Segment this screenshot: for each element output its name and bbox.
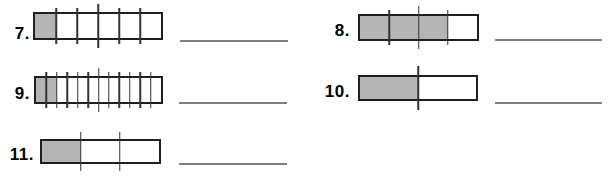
shaded-region (360, 77, 418, 99)
fraction-worksheet: 7. 8. 9. 10. 11. (0, 0, 615, 188)
segment-divider-line (389, 10, 391, 45)
segment-divider-line (67, 72, 69, 108)
shaded-region (360, 16, 448, 39)
segment-divider-line (417, 66, 419, 110)
segment-divider-line (56, 72, 58, 108)
exercise-number: 9. (0, 85, 30, 102)
fraction-bar (34, 76, 163, 104)
fraction-bar (358, 75, 478, 101)
segment-divider-line (119, 132, 121, 171)
segment-divider-line (418, 6, 420, 49)
segment-divider-line (108, 72, 110, 108)
segment-divider-line (46, 72, 48, 108)
segment-divider-line (98, 68, 100, 112)
segment-divider-line (129, 72, 131, 108)
exercise-number: 11. (4, 146, 34, 163)
fraction-bar (358, 14, 479, 41)
fraction-bar (33, 12, 163, 40)
segment-divider-line (97, 4, 99, 48)
segment-divider-line (76, 8, 78, 44)
segment-divider-line (119, 72, 121, 108)
segment-divider-line (139, 8, 141, 44)
segment-divider-line (150, 72, 152, 108)
answer-blank[interactable] (179, 102, 287, 104)
exercise-number: 8. (320, 22, 350, 39)
segment-divider-line (118, 8, 120, 44)
exercise-number: 10. (320, 83, 350, 100)
answer-blank[interactable] (180, 40, 288, 42)
segment-divider-line (77, 72, 79, 108)
segment-divider-line (55, 8, 57, 44)
answer-blank[interactable] (495, 39, 602, 41)
segment-divider-line (447, 10, 449, 45)
answer-blank[interactable] (495, 102, 602, 104)
shaded-region (42, 141, 81, 162)
answer-blank[interactable] (179, 163, 287, 165)
exercise-number: 7. (0, 25, 30, 42)
shaded-region (35, 14, 56, 38)
segment-divider-line (80, 132, 82, 171)
segment-divider-line (139, 72, 141, 108)
segment-divider-line (87, 72, 89, 108)
fraction-bar (40, 139, 161, 164)
